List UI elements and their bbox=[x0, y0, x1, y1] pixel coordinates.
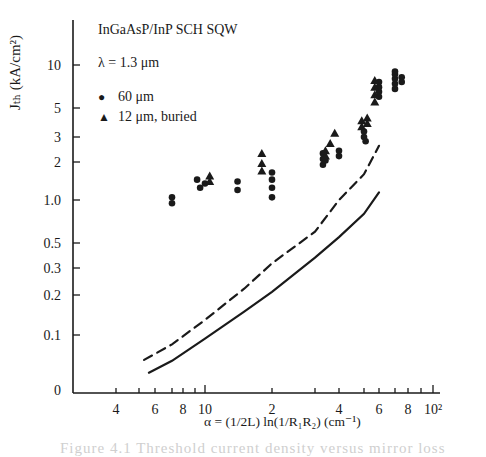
svg-text:3: 3 bbox=[54, 130, 61, 145]
legend-label-60um: 60 μm bbox=[118, 89, 154, 104]
svg-text:0.3: 0.3 bbox=[44, 261, 62, 276]
wavelength-annotation: λ = 1.3 μm bbox=[98, 55, 159, 71]
legend-item-12um-buried: ▲12 μm, buried bbox=[98, 109, 197, 125]
theory-curves bbox=[144, 146, 379, 373]
axes bbox=[73, 20, 440, 393]
figure-caption: Figure 4.1 Threshold current density ver… bbox=[60, 440, 446, 457]
svg-text:2: 2 bbox=[54, 155, 61, 170]
circle-marker-icon: ● bbox=[98, 90, 118, 105]
svg-text:4: 4 bbox=[113, 402, 120, 417]
data-points bbox=[169, 68, 405, 206]
svg-text:1.0: 1.0 bbox=[44, 193, 62, 208]
svg-text:6: 6 bbox=[376, 402, 383, 417]
legend-item-60um: ●60 μm bbox=[98, 89, 154, 105]
svg-text:8: 8 bbox=[405, 402, 412, 417]
y-axis-label: Jₜₕ (kA/cm²) bbox=[6, 35, 24, 110]
svg-text:8: 8 bbox=[180, 402, 187, 417]
svg-text:0.2: 0.2 bbox=[44, 288, 62, 303]
svg-text:5: 5 bbox=[54, 101, 61, 116]
svg-text:10: 10 bbox=[47, 58, 61, 73]
legend-label-12um: 12 μm, buried bbox=[118, 109, 197, 124]
svg-text:0.5: 0.5 bbox=[44, 236, 62, 251]
triangle-marker-icon: ▲ bbox=[98, 110, 118, 125]
chart-title: InGaAsP/InP SCH SQW bbox=[98, 22, 238, 38]
svg-text:10²: 10² bbox=[424, 402, 442, 417]
svg-text:0.1: 0.1 bbox=[44, 328, 62, 343]
x-axis-label: α = (1/2L) ln(1/R₁R₂) (cm⁻¹) bbox=[204, 413, 361, 430]
svg-text:6: 6 bbox=[152, 402, 159, 417]
svg-text:0: 0 bbox=[54, 383, 61, 398]
